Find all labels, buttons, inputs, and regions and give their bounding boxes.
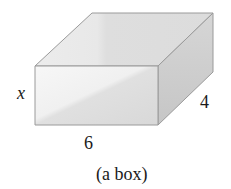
caption: (a box): [96, 164, 147, 185]
box-diagram: x 4 6 (a box): [0, 0, 231, 189]
height-label: x: [16, 83, 25, 103]
box-front-face: [35, 66, 158, 125]
depth-label: 4: [200, 92, 209, 112]
width-label: 6: [84, 133, 93, 153]
